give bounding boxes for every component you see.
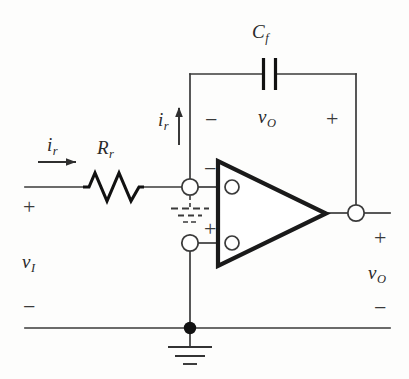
opamp-inverting-label: − xyxy=(204,158,216,180)
capacitor-voltage-var: v xyxy=(258,106,266,127)
input-voltage-label: vI xyxy=(22,252,35,274)
output-plus-text: + xyxy=(374,225,386,250)
circuit-canvas xyxy=(0,0,409,379)
input-plus-text: + xyxy=(23,194,35,219)
noninverting-input-node xyxy=(182,235,198,251)
inverting-input-node xyxy=(182,179,198,195)
input-current-label: ir xyxy=(47,135,58,157)
feedback-current-label-sub: r xyxy=(164,119,169,133)
input-minus-text: − xyxy=(23,294,35,319)
output-minus-label: − xyxy=(374,297,386,319)
output-plus-label: + xyxy=(374,227,386,249)
output-voltage-sub: O xyxy=(377,272,386,286)
capacitor-left-minus-label: − xyxy=(205,109,217,131)
capacitor-voltage-sub: O xyxy=(267,116,276,130)
capacitor-label: Cf xyxy=(252,22,269,44)
input-current-arrow-head xyxy=(66,158,76,166)
ground-icon xyxy=(168,347,212,364)
output-voltage-var: v xyxy=(368,262,376,283)
resistor-label: Rr xyxy=(97,138,114,160)
output-minus-text: − xyxy=(374,295,386,320)
input-plus-label: + xyxy=(23,196,35,218)
opamp-noninverting-label: + xyxy=(204,218,216,240)
output-voltage-label: vO xyxy=(368,263,386,285)
feedback-current-label-var: i xyxy=(158,109,163,130)
opamp-inverting-text: − xyxy=(204,156,216,181)
feedback-current-arrow xyxy=(175,107,183,145)
resistor-symbol xyxy=(83,173,144,201)
input-current-label-sub: r xyxy=(53,144,58,158)
capacitor-symbol xyxy=(264,58,276,90)
circuit-figure: Cf ir − vO + ir Rr − + + vI − + xyxy=(0,0,409,379)
feedback-current-label: ir xyxy=(158,110,169,132)
input-voltage-sub: I xyxy=(31,261,35,275)
capacitor-right-plus-text: + xyxy=(326,106,338,131)
ground-junction-dot xyxy=(184,322,196,334)
capacitor-voltage-label: vO xyxy=(258,107,276,129)
feedback-current-arrow-head xyxy=(175,107,183,117)
capacitor-right-plus-label: + xyxy=(326,108,338,130)
opamp-noninverting-pin xyxy=(225,236,239,250)
input-voltage-var: v xyxy=(22,251,30,272)
input-minus-label: − xyxy=(23,296,35,318)
resistor-label-var: R xyxy=(97,137,109,158)
opamp-inverting-pin xyxy=(225,180,239,194)
input-current-label-var: i xyxy=(47,134,52,155)
output-node xyxy=(348,205,364,221)
capacitor-label-var: C xyxy=(252,21,265,42)
capacitor-label-sub: f xyxy=(265,31,268,45)
capacitor-left-minus-text: − xyxy=(205,107,217,132)
opamp-noninverting-text: + xyxy=(204,216,216,241)
resistor-label-sub: r xyxy=(109,147,114,161)
input-current-arrow xyxy=(38,158,76,166)
